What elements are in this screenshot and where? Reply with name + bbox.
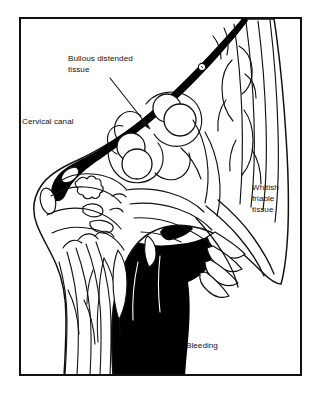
label-cervical-canal: Cervical canal: [22, 117, 74, 126]
label-bleeding-line-1: Bleeding: [186, 341, 218, 350]
medical-illustration-figure: Bullous distended tissue Cervical canal …: [0, 0, 319, 399]
illustration-canvas: Bullous distended tissue Cervical canal …: [0, 0, 319, 399]
label-bullous-line-1: Bullous distended: [68, 54, 133, 63]
label-whitish-line-3: tissue: [252, 205, 274, 214]
label-cervical-canal-line-1: Cervical canal: [22, 117, 74, 126]
label-whitish-line-2: friable: [252, 194, 275, 203]
label-bleeding: Bleeding: [186, 341, 218, 350]
label-bullous-line-2: tissue: [68, 65, 90, 74]
label-whitish-line-1: Whitish: [252, 183, 279, 192]
bullous-vesicle-2: [164, 104, 196, 136]
bullous-vesicle-4: [122, 149, 152, 179]
